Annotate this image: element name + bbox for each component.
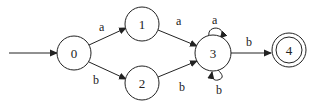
edge-label-1-3: a [176,14,182,28]
self-loop-3-b: b [212,70,222,97]
state-3: 3 [195,35,231,71]
edge-label-0-1: a [99,20,105,34]
state-label-1: 1 [139,17,146,32]
edge-label-3-4: b [246,35,252,49]
state-1: 1 [125,7,159,41]
edge-label-3-3-a: a [212,13,218,27]
state-0: 0 [57,36,91,70]
edge-1-3: a [158,14,197,46]
state-label-3: 3 [210,46,217,61]
edge-3-4: b [231,35,271,53]
edge-label-2-3: b [179,80,185,94]
state-label-2: 2 [139,76,146,91]
edge-0-1: a [89,20,126,45]
edge-label-3-3-b: b [216,83,222,97]
state-label-0: 0 [71,46,78,61]
self-loop-3-a: a [209,13,222,38]
edge-0-2: b [89,62,126,87]
state-2: 2 [125,66,159,100]
automaton-diagram: a b a b a b b [0,0,316,110]
state-label-4: 4 [286,43,293,58]
edge-2-3: b [158,61,197,94]
edge-label-0-2: b [93,73,99,87]
state-4-accepting: 4 [272,33,306,67]
